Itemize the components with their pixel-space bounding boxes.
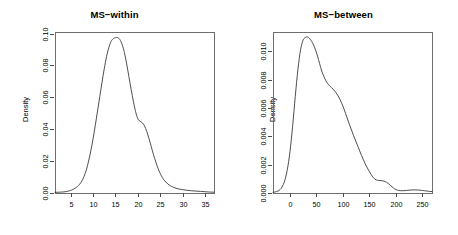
svg-text:0.04: 0.04 bbox=[41, 123, 50, 137]
svg-text:5: 5 bbox=[70, 200, 74, 209]
svg-text:0.008: 0.008 bbox=[259, 72, 268, 90]
svg-text:25: 25 bbox=[157, 200, 165, 209]
svg-text:0.000: 0.000 bbox=[259, 185, 268, 203]
svg-text:150: 150 bbox=[364, 200, 376, 209]
svg-text:0.08: 0.08 bbox=[41, 59, 50, 73]
plot-area-ms-between: 0501001502002500.0000.0020.0040.0060.008… bbox=[229, 0, 458, 235]
svg-text:10: 10 bbox=[90, 200, 98, 209]
svg-text:0.004: 0.004 bbox=[259, 128, 268, 146]
svg-text:15: 15 bbox=[112, 200, 120, 209]
svg-text:0.06: 0.06 bbox=[41, 91, 50, 105]
svg-text:20: 20 bbox=[135, 200, 143, 209]
svg-text:50: 50 bbox=[313, 200, 321, 209]
svg-text:0.006: 0.006 bbox=[259, 100, 268, 118]
svg-text:0.00: 0.00 bbox=[41, 187, 50, 201]
svg-text:200: 200 bbox=[391, 200, 403, 209]
panel-ms-between: MS−between Density 0501001502002500.0000… bbox=[229, 0, 458, 235]
density-plot-figure: MS−within Density 51015202530350.000.020… bbox=[0, 0, 458, 235]
svg-text:0: 0 bbox=[289, 200, 293, 209]
svg-text:35: 35 bbox=[202, 200, 210, 209]
svg-text:100: 100 bbox=[338, 200, 350, 209]
plot-area-ms-within: 51015202530350.000.020.040.060.080.10 bbox=[0, 0, 229, 235]
svg-text:0.10: 0.10 bbox=[41, 28, 50, 42]
svg-text:0.02: 0.02 bbox=[41, 155, 50, 169]
svg-text:250: 250 bbox=[417, 200, 429, 209]
svg-text:0.010: 0.010 bbox=[259, 43, 268, 61]
svg-text:0.002: 0.002 bbox=[259, 157, 268, 175]
panel-ms-within: MS−within Density 51015202530350.000.020… bbox=[0, 0, 229, 235]
svg-text:30: 30 bbox=[180, 200, 188, 209]
